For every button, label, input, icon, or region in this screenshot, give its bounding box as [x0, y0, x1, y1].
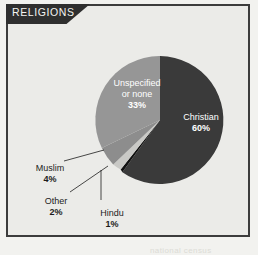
pie-label-christian-name: Christian — [183, 112, 219, 122]
chart-panel: Unspecified or none 33% Christian 60% Mu… — [6, 4, 250, 237]
pie-label-muslim: Muslim 4% — [26, 163, 74, 186]
pie-label-unspecified-line1: Unspecified — [113, 78, 160, 88]
pie-label-christian-value: 60% — [174, 123, 228, 134]
pie-label-unspecified-line2: or none — [122, 89, 153, 99]
pie-label-hindu-value: 1% — [92, 219, 132, 230]
pie-label-hindu: Hindu 1% — [92, 208, 132, 231]
scanned-page-background: the population of this region is recorde… — [0, 0, 258, 255]
pie-label-other: Other 2% — [36, 196, 76, 219]
pie-label-other-value: 2% — [36, 207, 76, 218]
bleed-through-text: national census — [150, 246, 212, 255]
pie-label-unspecified-value: 33% — [100, 100, 174, 111]
pie-label-other-name: Other — [45, 196, 68, 206]
pie-label-christian: Christian 60% — [174, 112, 228, 134]
pie-label-unspecified: Unspecified or none 33% — [100, 78, 174, 111]
page-title: RELIGIONS — [12, 7, 75, 18]
pie-label-muslim-name: Muslim — [36, 163, 65, 173]
pie-label-hindu-name: Hindu — [100, 208, 124, 218]
pie-label-muslim-value: 4% — [26, 174, 74, 185]
